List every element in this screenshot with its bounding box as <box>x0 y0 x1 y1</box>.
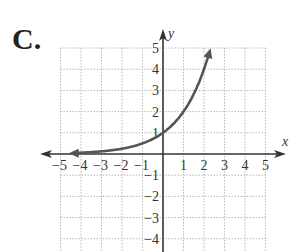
coordinate-plane: xy −5−4−3−2−11234554321−1−2−3−4 <box>0 0 296 252</box>
y-tick-label: −2 <box>144 189 159 204</box>
curve-arrow-right-icon <box>204 48 213 59</box>
x-tick-label: 4 <box>242 158 249 173</box>
tick-labels: −5−4−3−2−11234554321−1−2−3−4 <box>52 41 269 247</box>
y-tick-label: 3 <box>152 83 159 98</box>
x-tick-label: 2 <box>201 158 208 173</box>
y-axis-label: y <box>166 26 175 41</box>
x-tick-label: −2 <box>114 158 129 173</box>
x-tick-label: 3 <box>221 158 228 173</box>
axes: xy <box>40 26 289 252</box>
curve-arrow-left-icon <box>69 149 79 158</box>
x-tick-label: 1 <box>180 158 187 173</box>
y-tick-label: 4 <box>152 62 159 77</box>
x-axis-label: x <box>281 134 289 149</box>
x-tick-label: −3 <box>93 158 108 173</box>
y-tick-label: 5 <box>152 41 159 56</box>
x-tick-label: 5 <box>262 158 269 173</box>
y-tick-label: −3 <box>144 211 159 226</box>
y-tick-label: −1 <box>144 168 159 183</box>
y-tick-label: −4 <box>144 232 159 247</box>
exponential-curve <box>69 48 213 157</box>
x-tick-label: −5 <box>52 158 67 173</box>
x-tick-label: −4 <box>73 158 88 173</box>
y-tick-label: 2 <box>152 105 159 120</box>
